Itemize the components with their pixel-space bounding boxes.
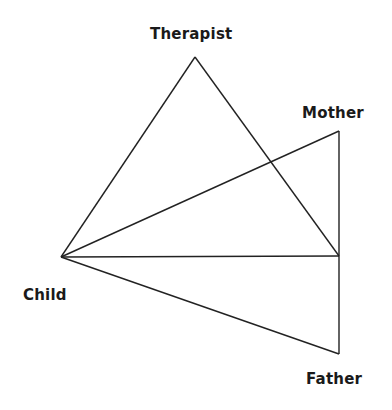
triangle-diagram: Therapist Mother Child Father	[0, 0, 392, 410]
edge-child-junction	[61, 256, 339, 257]
label-child: Child	[23, 286, 67, 304]
edge-therapist-junction	[195, 57, 339, 256]
label-father: Father	[306, 370, 362, 388]
label-therapist: Therapist	[150, 25, 232, 43]
diagram-lines	[0, 0, 392, 410]
label-mother: Mother	[302, 104, 364, 122]
edge-child-father	[61, 257, 339, 354]
